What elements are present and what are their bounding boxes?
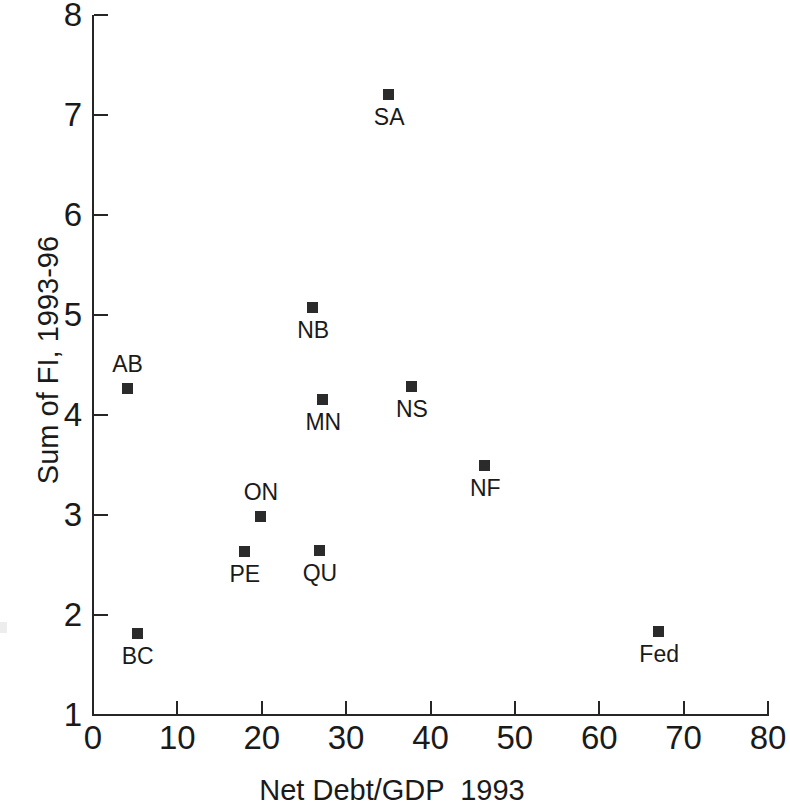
y-tick-2 — [94, 614, 108, 616]
x-tick-label-20: 20 — [227, 720, 297, 756]
data-point-label-bc: BC — [78, 644, 198, 668]
x-tick-20 — [261, 701, 263, 715]
x-tick-70 — [683, 701, 685, 715]
y-tick-5 — [94, 314, 108, 316]
data-point-label-sa: SA — [329, 105, 449, 129]
data-point-label-nb: NB — [253, 318, 373, 342]
data-point-label-ab: AB — [68, 352, 188, 376]
x-tick-30 — [345, 701, 347, 715]
x-tick-label-70: 70 — [649, 720, 719, 756]
y-axis-title: Sum of FI, 1993-96 — [33, 60, 63, 660]
marker-square-icon — [406, 381, 417, 392]
y-tick-8 — [94, 14, 108, 16]
y-tick-7 — [94, 114, 108, 116]
x-tick-label-50: 50 — [480, 720, 550, 756]
marker-square-icon — [239, 546, 250, 557]
x-tick-0 — [92, 701, 94, 715]
x-tick-label-10: 10 — [142, 720, 212, 756]
x-tick-80 — [767, 701, 769, 715]
x-tick-60 — [598, 701, 600, 715]
y-tick-1 — [94, 714, 108, 716]
x-tick-label-60: 60 — [564, 720, 634, 756]
marker-square-icon — [317, 394, 328, 405]
y-tick-4 — [94, 414, 108, 416]
x-tick-label-40: 40 — [396, 720, 466, 756]
data-point-label-pe: PE — [185, 562, 305, 586]
x-tick-50 — [514, 701, 516, 715]
marker-square-icon — [307, 302, 318, 313]
x-tick-10 — [176, 701, 178, 715]
marker-square-icon — [122, 383, 133, 394]
y-tick-label-8: 8 — [36, 0, 82, 31]
marker-square-icon — [383, 89, 394, 100]
scan-artifact — [0, 622, 7, 633]
marker-square-icon — [255, 511, 266, 522]
data-point-label-on: ON — [201, 480, 321, 504]
marker-square-icon — [653, 626, 664, 637]
x-axis-title: Net Debt/GDP 1993 — [0, 775, 784, 805]
x-tick-label-30: 30 — [311, 720, 381, 756]
marker-square-icon — [132, 628, 143, 639]
y-tick-label-wrap: 8 — [30, 0, 82, 31]
y-tick-3 — [94, 514, 108, 516]
data-point-label-nf: NF — [425, 476, 545, 500]
y-tick-6 — [94, 214, 108, 216]
marker-square-icon — [314, 545, 325, 556]
x-tick-label-0: 0 — [58, 720, 128, 756]
x-tick-40 — [430, 701, 432, 715]
x-tick-label-80: 80 — [733, 720, 790, 756]
data-point-label-mn: MN — [263, 410, 383, 434]
marker-square-icon — [479, 460, 490, 471]
data-point-label-fed: Fed — [599, 642, 719, 666]
